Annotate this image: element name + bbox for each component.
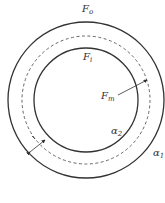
- label-alpha1: α1: [153, 147, 164, 160]
- outer-circle: [8, 22, 164, 178]
- label-fi: Fi: [82, 51, 92, 64]
- inner-circle: [34, 48, 138, 152]
- label-fo: Fo: [81, 3, 93, 16]
- fm-arrow: [118, 80, 147, 95]
- label-fm: Fm: [100, 90, 115, 103]
- concentric-circles-diagram: Fo Fi Fm α2 α1: [0, 0, 165, 203]
- label-alpha2: α2: [111, 125, 123, 138]
